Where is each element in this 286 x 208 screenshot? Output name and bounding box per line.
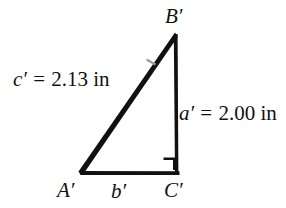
vertex-label-a-prime: A′ <box>57 180 74 201</box>
side-label-hypotenuse-variable: c′ <box>13 67 27 91</box>
base-leg-line <box>79 171 180 175</box>
vertex-label-c-prime: C′ <box>164 180 183 201</box>
side-label-vertical-leg-value: 2.00 <box>218 101 255 125</box>
side-label-base-leg: b′ <box>111 181 126 202</box>
right-triangle-figure: B′ c′ = 2.13 in a′ = 2.00 in A′ b′ C′ <box>0 0 286 208</box>
vertex-label-c-prime-text: C′ <box>164 178 183 202</box>
side-label-vertical-leg-equals: = <box>199 101 213 125</box>
vertical-leg-line <box>174 34 179 174</box>
side-label-hypotenuse-unit: in <box>93 67 109 91</box>
vertex-label-b-prime-text: B′ <box>165 4 182 28</box>
side-label-vertical-leg-variable: a′ <box>179 101 194 125</box>
hypotenuse-line <box>79 33 178 175</box>
side-label-hypotenuse-equals: = <box>32 67 46 91</box>
side-label-hypotenuse: c′ = 2.13 in <box>13 69 110 90</box>
side-label-vertical-leg-unit: in <box>260 101 276 125</box>
side-label-vertical-leg: a′ = 2.00 in <box>179 103 277 124</box>
hypotenuse-tick-icon <box>147 60 156 65</box>
vertex-label-a-prime-text: A′ <box>57 178 74 202</box>
right-angle-marker-icon <box>164 159 175 170</box>
vertex-label-b-prime: B′ <box>165 6 182 27</box>
side-label-hypotenuse-value: 2.13 <box>51 67 88 91</box>
side-label-base-leg-variable: b′ <box>111 179 126 203</box>
